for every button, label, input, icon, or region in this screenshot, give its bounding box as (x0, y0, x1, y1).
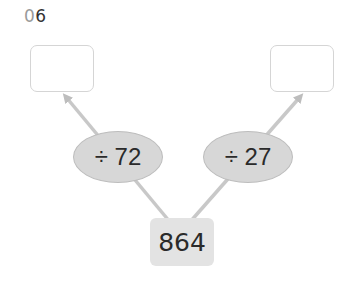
right-answer-box[interactable] (270, 45, 334, 92)
start-value: 864 (158, 228, 206, 257)
left-operation-label: ÷ 72 (95, 143, 142, 171)
right-operation-oval: ÷ 27 (203, 131, 293, 183)
left-operation-oval: ÷ 72 (73, 131, 163, 183)
left-answer-box[interactable] (30, 45, 94, 92)
right-operation-label: ÷ 27 (225, 143, 272, 171)
start-value-box: 864 (150, 218, 214, 266)
